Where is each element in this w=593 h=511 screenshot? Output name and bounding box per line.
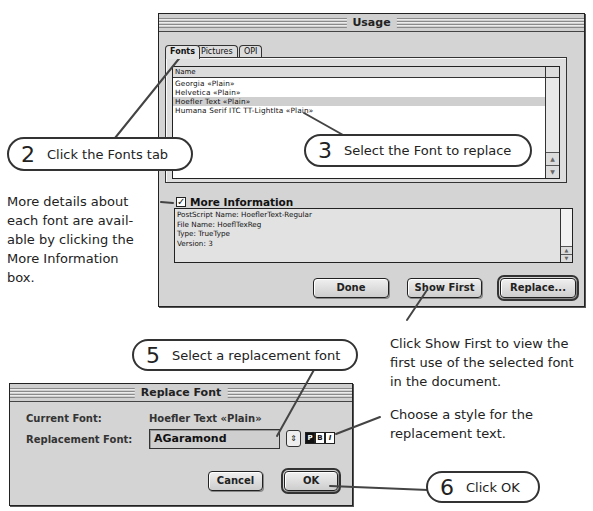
list-column-header-name[interactable]: Name: [173, 67, 545, 78]
scroll-up-arrow-icon[interactable]: ▲: [561, 246, 572, 254]
callout-step-2: 2 Click the Fonts tab: [7, 137, 193, 171]
info-version: Version: 3: [175, 239, 558, 249]
ok-button[interactable]: OK: [284, 471, 338, 491]
font-info-box: PostScript Name: HoeflerText-Regular Fil…: [174, 208, 573, 263]
info-type: Type: TrueType: [175, 229, 558, 239]
tab-fonts[interactable]: Fonts: [165, 45, 200, 59]
style-italic-button[interactable]: I: [325, 432, 335, 444]
list-item-selected[interactable]: Hoefler Text «Plain»: [173, 97, 545, 106]
replace-button[interactable]: Replace...: [500, 278, 576, 298]
font-list-scrollbar[interactable]: ▲ ▼: [545, 78, 559, 178]
style-plain-button[interactable]: P: [305, 432, 315, 444]
callout-step-3: 3 Select the Font to replace: [304, 134, 532, 167]
callout-step-6: 6 Click OK: [426, 471, 540, 503]
replacement-font-field[interactable]: AGaramond: [149, 429, 280, 449]
font-stepper-icon[interactable]: ⇕: [286, 430, 301, 447]
scroll-down-arrow-icon[interactable]: ▼: [546, 165, 559, 178]
info-box-scrollbar[interactable]: ▲ ▼: [560, 209, 572, 262]
style-bold-button[interactable]: B: [315, 432, 325, 444]
cancel-button[interactable]: Cancel: [208, 471, 263, 491]
note-style: Choose a style for the replacement text.: [390, 405, 533, 443]
more-information-label[interactable]: More Information: [190, 196, 293, 208]
list-item[interactable]: Georgia «Plain»: [173, 79, 545, 88]
list-item[interactable]: Helvetica «Plain»: [173, 88, 545, 97]
current-font-label: Current Font:: [26, 413, 102, 424]
replacement-font-label: Replacement Font:: [26, 434, 132, 445]
show-first-button[interactable]: Show First: [407, 278, 482, 298]
info-postscript-name: PostScript Name: HoeflerText-Regular: [175, 210, 558, 220]
note-show-first: Click Show First to view the first use o…: [390, 334, 574, 391]
checkmark-icon: ✓: [177, 196, 185, 207]
scroll-down-arrow-icon[interactable]: ▼: [561, 254, 572, 262]
usage-window-title: Usage: [346, 15, 396, 31]
info-file-name: File Name: HoeflTexReg: [175, 220, 558, 230]
done-button[interactable]: Done: [313, 278, 389, 298]
usage-title-bar[interactable]: Usage: [159, 14, 584, 32]
note-more-information: More details about each font are avail- …: [7, 192, 134, 287]
replace-font-title: Replace Font: [135, 385, 228, 401]
list-header-corner: [545, 67, 559, 78]
more-information-checkbox[interactable]: ✓: [176, 197, 186, 207]
scroll-up-arrow-icon[interactable]: ▲: [546, 152, 559, 165]
list-item[interactable]: Humana Serif ITC TT-LightIta «Plain»: [173, 106, 545, 115]
replace-font-title-bar[interactable]: Replace Font: [10, 384, 352, 402]
callout-step-5: 5 Select a replacement font: [132, 339, 358, 371]
current-font-value: Hoefler Text «Plain»: [149, 413, 262, 424]
